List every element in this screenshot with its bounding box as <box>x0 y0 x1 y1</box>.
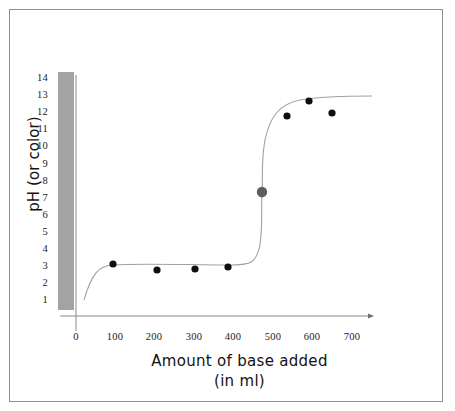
data-point <box>224 263 231 270</box>
x-tick-label: 700 <box>335 331 369 342</box>
y-tick-label: 13 <box>28 89 48 100</box>
data-point <box>305 97 312 104</box>
ph-color-bar <box>58 72 74 310</box>
y-tick-label: 3 <box>28 260 48 271</box>
y-axis-label: pH (or color) <box>25 104 43 224</box>
x-axis-label: Amount of base added <box>12 352 455 370</box>
arrow-right-icon <box>368 313 374 318</box>
x-tick-label: 500 <box>256 331 290 342</box>
data-point <box>283 112 290 119</box>
data-point <box>328 109 335 116</box>
y-tick-label: 1 <box>28 294 48 305</box>
x-axis-label-units: (in ml) <box>12 372 455 390</box>
plot-area <box>0 0 455 411</box>
x-tick-label: 0 <box>59 331 93 342</box>
y-tick-label: 5 <box>28 226 48 237</box>
chart-figure: 14 13 12 11 10 9 8 7 6 5 4 3 2 1 0 100 2… <box>0 0 455 411</box>
x-tick-label: 100 <box>98 331 132 342</box>
x-tick-label: 300 <box>177 331 211 342</box>
data-point <box>153 266 160 273</box>
equivalence-point-marker <box>257 187 267 197</box>
y-tick-label: 14 <box>28 72 48 83</box>
data-point <box>109 260 116 267</box>
x-tick-label: 200 <box>137 331 171 342</box>
y-tick-label: 4 <box>28 243 48 254</box>
x-tick-label: 400 <box>216 331 250 342</box>
data-point <box>191 265 198 272</box>
y-tick-label: 2 <box>28 277 48 288</box>
x-tick-label: 600 <box>295 331 329 342</box>
